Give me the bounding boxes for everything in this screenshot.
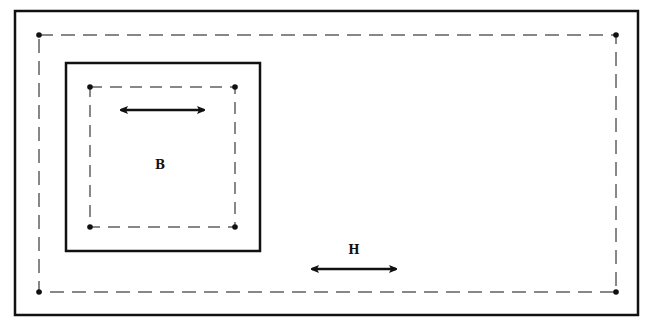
label-b: B — [155, 158, 165, 172]
corner-point — [87, 84, 93, 90]
outer-dashed-boundary — [39, 35, 616, 292]
corner-point — [36, 289, 42, 295]
label-h: H — [348, 243, 359, 257]
corner-point — [36, 32, 42, 38]
outer-corner-points — [36, 32, 619, 295]
corner-point — [232, 224, 238, 230]
corner-point — [613, 32, 619, 38]
diagram-canvas: B H — [0, 0, 647, 326]
corner-point — [87, 224, 93, 230]
inner-dashed-boundary — [90, 87, 235, 227]
inner-corner-points — [87, 84, 238, 230]
corner-point — [232, 84, 238, 90]
corner-point — [613, 289, 619, 295]
inner-frame — [66, 63, 260, 251]
